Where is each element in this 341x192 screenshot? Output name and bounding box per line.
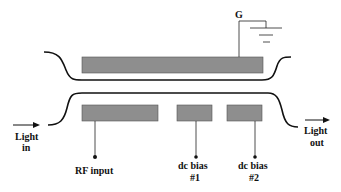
light-in-arrow-icon (13, 122, 40, 128)
dc-bias-2-label-line2: #2 (249, 172, 259, 183)
light-out-arrow-icon (305, 117, 330, 123)
dc-bias-2-terminal-icon (253, 155, 257, 159)
light-out-label-line1: Light (304, 125, 328, 136)
dc-bias-1-electrode (177, 105, 212, 121)
rf-input-label: RF input (75, 165, 114, 176)
light-out-label-line2: out (310, 137, 325, 148)
ground-label: G (235, 9, 243, 20)
dc-bias-2-electrode (227, 105, 262, 121)
dc-bias-1-label-line1: dc bias (178, 160, 208, 171)
dc-bias-1-terminal-icon (194, 155, 198, 159)
ground-electrode (82, 57, 263, 73)
modulator-diagram: G Light in Light out RF input dc bias #1… (0, 0, 341, 192)
rf-electrode (82, 105, 158, 121)
dc-bias-2-label-line1: dc bias (238, 160, 268, 171)
dc-bias-1-label-line2: #1 (190, 172, 200, 183)
light-in-label-line2: in (22, 142, 31, 153)
ground-icon (239, 21, 282, 57)
rf-terminal-icon (93, 155, 97, 159)
light-in-label-line1: Light (15, 131, 39, 142)
